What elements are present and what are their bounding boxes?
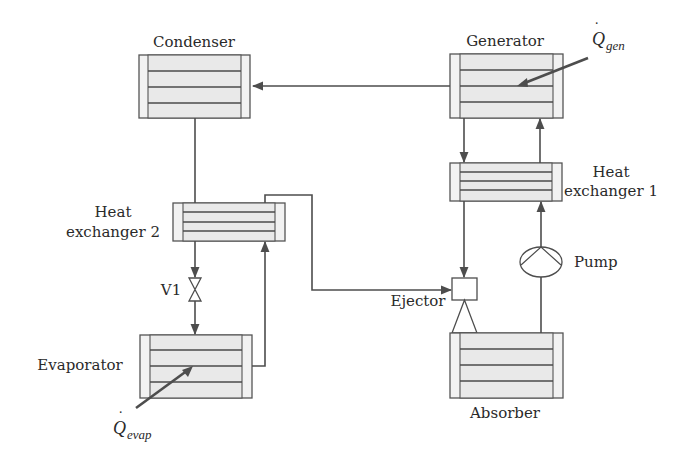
heat-exchanger-2: Heat exchanger 2	[66, 203, 285, 241]
hx1-label-line2: exchanger 1	[564, 182, 658, 200]
generator-label: Generator	[466, 32, 545, 50]
absorber-label: Absorber	[469, 404, 541, 422]
ejector-diffuser-icon	[452, 300, 477, 333]
condenser: Condenser	[139, 33, 250, 118]
ejector-label: Ejector	[390, 292, 446, 310]
hx1-label-line1: Heat	[593, 163, 630, 181]
ejector: Ejector	[390, 278, 477, 333]
evaporator-label: Evaporator	[37, 356, 123, 374]
condenser-label: Condenser	[153, 33, 236, 51]
expansion-valve-v1: V1	[160, 278, 201, 301]
pump-label: Pump	[574, 253, 618, 271]
q-gen-symbol: Q	[592, 29, 605, 49]
q-gen-subscript: gen	[606, 38, 625, 53]
hx2-label-line2: exchanger 2	[66, 223, 160, 241]
heat-exchanger-1: Heat exchanger 1	[450, 163, 658, 201]
ejector-body-icon	[452, 278, 477, 300]
evaporator: Evaporator	[37, 335, 252, 398]
valve-icon	[189, 278, 201, 301]
pump-icon	[520, 247, 562, 277]
q-evap-symbol: Q	[113, 418, 126, 438]
absorber: Absorber	[450, 333, 563, 422]
q-evap-subscript: evap	[127, 427, 152, 442]
valve-label: V1	[160, 281, 181, 299]
pipe-evaporator-to-hx2	[252, 242, 265, 366]
hx2-label-line1: Heat	[95, 203, 132, 221]
refrigeration-cycle-diagram: Condenser Generator ˙ Q gen Heat exchang…	[0, 0, 700, 457]
pipe-hx2-to-ejector	[265, 195, 451, 290]
pump: Pump	[520, 247, 618, 277]
